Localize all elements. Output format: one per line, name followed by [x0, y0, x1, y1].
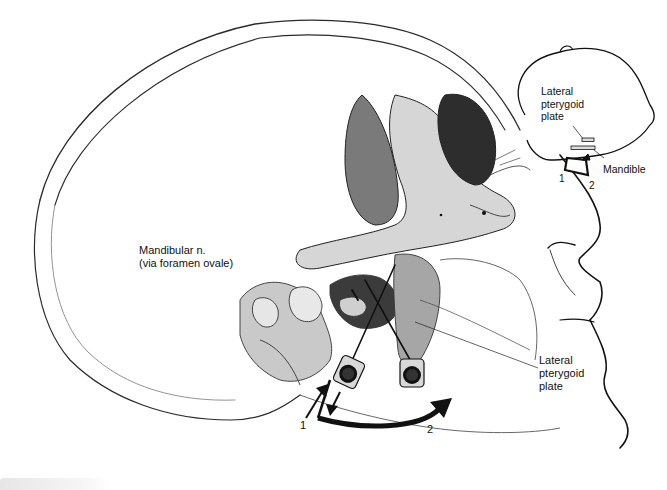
label-position-2: 2	[427, 423, 433, 435]
movement-arrows	[306, 380, 452, 426]
inset-details	[565, 126, 604, 175]
orbit-and-zygoma	[296, 94, 515, 269]
face-profile	[480, 150, 628, 448]
inset-head	[518, 46, 654, 160]
label-line: pterygoid	[541, 98, 584, 111]
label-lateral-pterygoid-plate: Lateral pterygoid plate	[539, 354, 584, 393]
bottom-edge-shadow	[0, 478, 110, 490]
skull-illustration	[0, 0, 667, 490]
arc-arrow	[318, 408, 440, 426]
label-position-1: 1	[300, 419, 306, 431]
label-line: plate	[539, 380, 584, 393]
label-line: pterygoid	[539, 367, 584, 380]
inset-label-position-2: 2	[589, 180, 595, 191]
inset-label-lateral-pterygoid-plate: Lateral pterygoid plate	[541, 85, 584, 123]
inset-label-mandible: Mandible	[603, 163, 646, 176]
temporal-region	[240, 282, 332, 385]
label-mandibular-nerve: Mandibular n. (via foramen ovale)	[139, 244, 233, 270]
mandible-region	[300, 254, 560, 433]
inset-label-position-1: 1	[559, 173, 565, 184]
label-line: Lateral	[539, 354, 584, 367]
needle-hub-2	[400, 359, 424, 387]
label-line: Mandibular n.	[139, 244, 233, 257]
label-line: plate	[541, 110, 584, 123]
label-line: (via foramen ovale)	[139, 257, 233, 270]
needle-hub-1	[332, 354, 366, 390]
label-line: Lateral	[541, 85, 584, 98]
